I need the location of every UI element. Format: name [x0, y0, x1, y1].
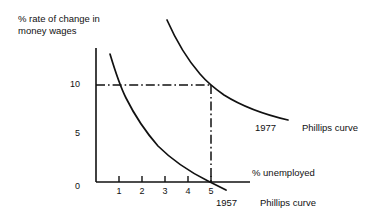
- x-tick-label-4: 4: [181, 186, 195, 197]
- y-tick-label-10: 10: [62, 79, 80, 90]
- x-axis-title: % unemployed: [252, 167, 315, 179]
- x-tick-label-5: 5: [204, 186, 218, 197]
- y-tick-label-5: 5: [62, 128, 80, 139]
- x-tick-label-1: 1: [112, 186, 126, 197]
- phillips-curve-figure: % rate of change inmoney wages % unemplo…: [0, 0, 383, 217]
- y-axis-title-line1: % rate of change in: [18, 13, 100, 24]
- curve-1957-name-label: Phillips curve: [260, 197, 316, 209]
- curve-1977-phillips: [167, 20, 288, 120]
- curve-1977-year-label: 1977: [255, 122, 276, 134]
- x-tick-label-3: 3: [158, 186, 172, 197]
- y-axis-title-line2: money wages: [18, 25, 77, 36]
- curve-1957-phillips: [110, 54, 226, 190]
- curve-1977-name-label: Phillips curve: [302, 122, 358, 134]
- y-tick-label-0: 0: [62, 181, 80, 192]
- x-tick-label-2: 2: [135, 186, 149, 197]
- y-axis-title: % rate of change inmoney wages: [18, 13, 100, 37]
- x-axis-ticks: [119, 176, 211, 182]
- curve-1957-year-label: 1957: [216, 197, 237, 209]
